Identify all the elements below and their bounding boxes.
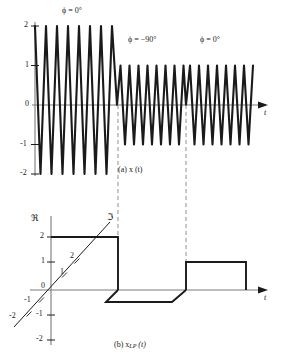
panel-b-caption: (b) xLP (t) <box>114 341 146 349</box>
panel-b-real-tick-neg2: -2 <box>36 335 43 343</box>
panel-a-ytick-2: 2 <box>24 21 28 29</box>
imag-axis-symbol: ℑ <box>107 213 113 222</box>
panel-a-xaxis-label: t <box>264 109 266 117</box>
real-axis-symbol: ℜ <box>31 214 38 223</box>
panel-a-ytick-neg2: -2 <box>20 169 27 177</box>
panel-b-axes <box>14 216 268 345</box>
panel-b-real-tick-0: 0 <box>41 282 45 290</box>
panel-b-xaxis-label: t <box>264 294 266 302</box>
signal-figure <box>0 0 285 362</box>
panel-b-real-tick-2: 2 <box>40 232 44 240</box>
panel-b-caption-tail: (t) <box>136 340 146 349</box>
panel-a-ytick-1: 1 <box>25 61 29 69</box>
panel-a-waveform <box>35 26 253 174</box>
panel-b-waveform <box>51 237 246 302</box>
panel-a-ytick-0: 0 <box>25 100 29 108</box>
panel-b-imag-tick-1: 1 <box>60 268 64 276</box>
panel-b-caption-main: (b) x <box>114 340 129 349</box>
panel-b-imag-tick-neg1: -1 <box>24 296 31 304</box>
panel-a-caption: (a) x (t) <box>118 166 142 174</box>
panel-b-imag-tick-2: 2 <box>70 252 74 260</box>
panel-b-real-tick-neg1: -1 <box>36 310 43 318</box>
panel-a-ytick-neg1: -1 <box>20 140 27 148</box>
annotation-phase-minus90: ϕ = −90° <box>128 36 156 44</box>
panel-b-real-tick-1: 1 <box>41 257 45 265</box>
annotation-phase-0-first: ϕ = 0° <box>62 7 82 15</box>
annotation-phase-0-second: ϕ = 0° <box>200 36 220 44</box>
panel-b-imag-tick-neg2: -2 <box>9 312 16 320</box>
